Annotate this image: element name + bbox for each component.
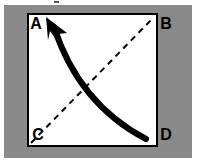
vertex-label-b: B [160, 15, 172, 32]
geometry-diagram-svg: A B C D [0, 0, 197, 166]
geometry-figure: A B C D [0, 0, 197, 166]
vertex-label-a: A [30, 15, 42, 32]
vertex-label-c: C [32, 126, 44, 143]
top-tick-mark [54, 1, 59, 3]
vertex-label-d: D [160, 126, 172, 143]
